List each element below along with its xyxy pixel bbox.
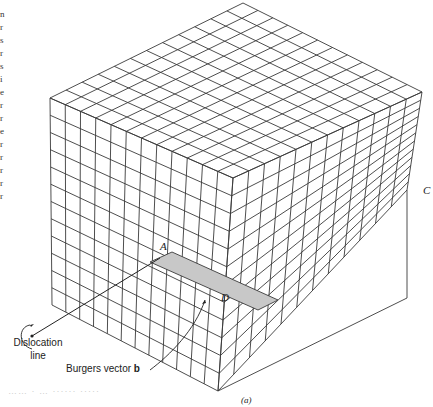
dislocation-line xyxy=(32,258,160,336)
faint-bleed-text: …… · … ······ ····· xyxy=(8,386,100,396)
label-A: A xyxy=(160,240,167,252)
burgers-vector-label: Burgers vector b xyxy=(66,363,140,374)
label-D: D xyxy=(221,291,229,303)
label-C: C xyxy=(423,184,430,196)
burgers-vector-leader xyxy=(150,300,205,370)
figure-caption: (a) xyxy=(241,395,252,405)
dislocation-line-label: Dislocation line xyxy=(10,336,66,362)
